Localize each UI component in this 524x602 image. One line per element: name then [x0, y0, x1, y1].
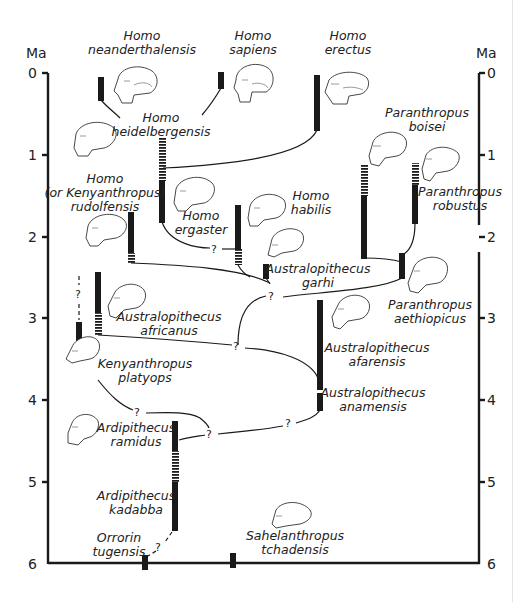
bar-neanderthalensis: [98, 77, 104, 101]
svg-text:Australopithecus: Australopithecus: [319, 385, 426, 400]
right-tick-6: 6: [487, 556, 496, 572]
bar-aethiopicus: [399, 253, 405, 279]
svg-text:rudolfensis: rudolfensis: [71, 199, 140, 214]
svg-text:tchadensis: tchadensis: [261, 542, 329, 557]
left-tick-4: 4: [28, 392, 37, 408]
svg-text:Paranthropus: Paranthropus: [385, 105, 469, 120]
question-mark-platyops: ?: [75, 288, 81, 301]
right-tick-3: 3: [487, 310, 496, 326]
svg-text:Ardipithecus: Ardipithecus: [96, 420, 176, 435]
label-robustus: Paranthropus robustus: [418, 184, 502, 213]
svg-text:Homo: Homo: [293, 188, 330, 203]
question-mark-anamensis: ?: [285, 417, 291, 430]
svg-text:kadabba: kadabba: [109, 502, 163, 517]
right-axis-unit: Ma: [476, 45, 497, 61]
bar-ramidus-kadabba-uncertain: [172, 451, 179, 482]
bar-tchadensis: [230, 553, 236, 568]
label-neanderthalensis: Homo neanderthalensis: [88, 28, 197, 57]
svg-text:africanus: africanus: [140, 323, 198, 338]
skull-afarensis-icon: [332, 295, 370, 329]
bar-robustus-uncertain: [412, 163, 419, 185]
skull-neanderthalensis-icon: [114, 67, 157, 103]
svg-text:habilis: habilis: [291, 202, 332, 217]
svg-text:heidelbergensis: heidelbergensis: [112, 124, 211, 139]
question-mark-orrorin: ?: [155, 541, 161, 554]
right-tick-1: 1: [487, 147, 496, 163]
left-tick-3: 3: [28, 310, 37, 326]
label-tchadensis: Sahelanthropus tchadensis: [246, 528, 345, 557]
skull-ramidus-icon: [68, 414, 99, 445]
right-time-axis: Ma 0 1 2 3 4 5 6: [476, 45, 497, 572]
svg-text:ergaster: ergaster: [175, 222, 229, 237]
svg-text:garhi: garhi: [302, 275, 335, 290]
label-heidelbergensis: Homo heidelbergensis: [112, 110, 211, 139]
skull-sapiens-icon: [234, 64, 273, 102]
question-mark-platyops-link: ?: [134, 406, 140, 419]
svg-text:neanderthalensis: neanderthalensis: [88, 42, 197, 57]
svg-text:sapiens: sapiens: [229, 42, 277, 57]
svg-text:Homo: Homo: [87, 171, 124, 186]
svg-text:Homo: Homo: [124, 28, 161, 43]
skull-boisei-icon: [369, 132, 407, 166]
svg-text:afarensis: afarensis: [349, 354, 406, 369]
bar-rudolfensis-uncertain: [128, 253, 135, 264]
svg-text:anamensis: anamensis: [339, 399, 407, 414]
right-tick-5: 5: [487, 474, 496, 490]
label-tugenensis: Orrorin tugensis: [93, 530, 146, 559]
uncertainty-marks: ? ? ? ? ? ? ? ?: [75, 243, 291, 554]
skull-heidelbergensis-icon: [74, 122, 116, 156]
question-mark-garhi: ?: [268, 290, 274, 303]
right-tick-2: 2: [487, 229, 496, 245]
svg-text:Australopithecus: Australopithecus: [264, 261, 371, 276]
bar-habilis-uncertain: [235, 249, 242, 265]
left-tick-2: 2: [28, 229, 37, 245]
bar-boisei-uncertain: [361, 165, 368, 196]
svg-text:Homo: Homo: [235, 28, 272, 43]
svg-text:boisei: boisei: [409, 119, 446, 134]
svg-text:platyops: platyops: [117, 370, 172, 385]
label-rudolfensis: Homo (or Kenyanthropus) rudolfensis: [45, 171, 166, 214]
label-ergaster: Homo ergaster: [175, 208, 229, 237]
skull-robustus-icon: [422, 147, 459, 181]
label-erectus: Homo erectus: [325, 28, 372, 57]
bar-afarensis: [317, 300, 323, 390]
label-garhi: Australopithecus garhi: [264, 261, 371, 290]
svg-text:Orrorin: Orrorin: [97, 530, 141, 545]
skull-erectus-icon: [325, 72, 369, 104]
question-mark-africanus: ?: [233, 340, 239, 353]
svg-text:Australopithecus: Australopithecus: [323, 340, 430, 355]
svg-text:Paranthropus: Paranthropus: [388, 297, 472, 312]
hominin-phylogeny-diagram: Ma 0 1 2 3 4 5 6 Ma 0 1 2 3 4 5 6: [0, 0, 524, 602]
svg-text:Ardipithecus: Ardipithecus: [96, 488, 176, 503]
label-aethiopicus: Paranthropus aethiopicus: [388, 297, 472, 326]
bar-erectus: [314, 75, 320, 131]
bar-habilis: [235, 205, 241, 249]
left-tick-0: 0: [28, 65, 37, 81]
left-tick-6: 6: [28, 556, 37, 572]
bar-rudolfensis: [128, 212, 134, 253]
svg-text:aethiopicus: aethiopicus: [394, 311, 466, 326]
bar-heidelbergensis-uncertain: [159, 137, 166, 181]
skull-ergaster-icon: [174, 177, 214, 211]
svg-text:Homo: Homo: [183, 208, 220, 223]
skull-tchadensis-icon: [272, 503, 311, 529]
skull-habilis-icon: [248, 194, 286, 226]
svg-text:Homo: Homo: [143, 110, 180, 125]
svg-text:Sahelanthropus: Sahelanthropus: [246, 528, 345, 543]
svg-text:ramidus: ramidus: [111, 434, 162, 449]
bar-sapiens: [218, 72, 224, 89]
label-habilis: Homo habilis: [291, 188, 332, 217]
svg-text:erectus: erectus: [325, 42, 372, 57]
skull-aethiopicus-icon: [408, 257, 448, 293]
svg-text:tugensis: tugensis: [93, 544, 146, 559]
left-time-axis: Ma 0 1 2 3 4 5 6: [26, 45, 48, 572]
left-axis-unit: Ma: [26, 45, 47, 61]
label-ramidus: Ardipithecus ramidus: [96, 420, 176, 449]
right-tick-4: 4: [487, 392, 496, 408]
svg-text:Australopithecus: Australopithecus: [115, 309, 222, 324]
svg-text:Paranthropus: Paranthropus: [418, 184, 502, 199]
left-tick-1: 1: [28, 147, 37, 163]
bar-africanus-uncertain: [95, 313, 102, 335]
label-afarensis: Australopithecus afarensis: [323, 340, 430, 369]
right-tick-0: 0: [487, 65, 496, 81]
